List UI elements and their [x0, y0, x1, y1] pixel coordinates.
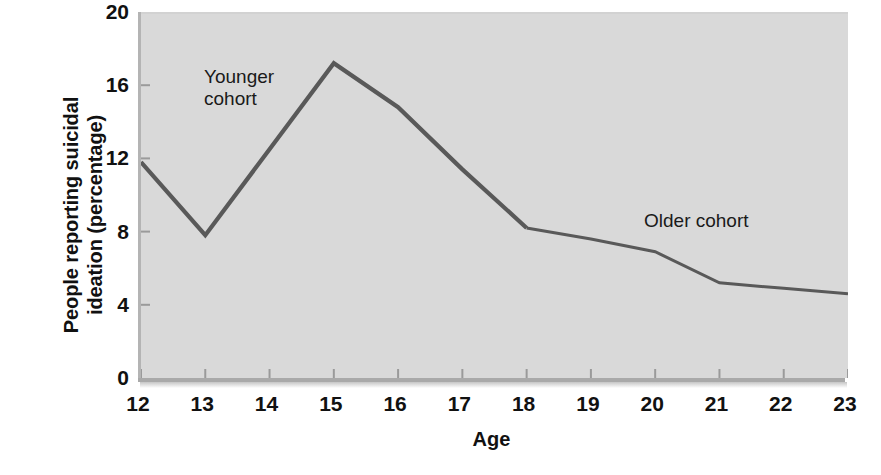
series-label-older-cohort: Older cohort: [644, 210, 749, 232]
series-label-younger-cohort-line-1: Younger: [204, 66, 274, 88]
series-label-younger-cohort-line-2: cohort: [204, 88, 274, 110]
x-axis-tick-label: 20: [640, 392, 663, 416]
plot-inner: Younger cohort Older cohort: [141, 12, 848, 378]
chart-figure: People reporting suicidal ideation (perc…: [0, 0, 881, 475]
y-axis-tick-label: 0: [60, 366, 138, 390]
series-line-older-cohort: [527, 228, 848, 294]
x-axis-tick-label: 12: [126, 392, 149, 416]
x-axis-tick-label: 15: [319, 392, 342, 416]
y-axis-tick-label: 12: [60, 146, 138, 170]
series-label-younger-cohort: Younger cohort: [204, 66, 274, 109]
x-axis-tick-labels: 121314151617181920212223: [138, 392, 845, 422]
x-axis-title: Age: [138, 428, 845, 451]
y-axis-tick-label: 4: [60, 293, 138, 317]
plot-area: Younger cohort Older cohort: [138, 12, 848, 378]
x-axis-tick-label: 21: [705, 392, 728, 416]
y-axis-tick-label: 8: [60, 220, 138, 244]
series-label-older-cohort-line-1: Older cohort: [644, 210, 749, 232]
x-axis-tick-label: 19: [576, 392, 599, 416]
x-axis-tick-label: 22: [769, 392, 792, 416]
x-axis-tick-label: 14: [255, 392, 278, 416]
x-axis-tick-label: 23: [833, 392, 856, 416]
x-axis-tick-label: 16: [383, 392, 406, 416]
x-axis-tick-label: 18: [512, 392, 535, 416]
y-axis-tick-label: 16: [60, 73, 138, 97]
series-line-younger-cohort: [141, 63, 527, 235]
x-axis-tick-label: 17: [448, 392, 471, 416]
x-axis-tick-label: 13: [191, 392, 214, 416]
y-axis-tick-label: 20: [60, 0, 138, 24]
x-axis-shadow: [140, 382, 847, 388]
